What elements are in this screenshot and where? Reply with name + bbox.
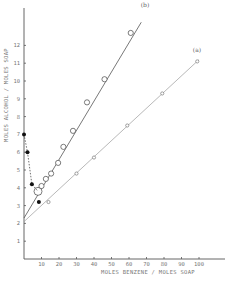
x-tick-label: 70 (143, 261, 150, 267)
data-point (196, 60, 199, 63)
data-point (102, 77, 107, 82)
series-b-label: (b) (141, 1, 150, 8)
data-point (22, 132, 26, 136)
y-tick-label: 5 (17, 167, 20, 173)
series-layer (22, 22, 199, 221)
x-axis-label: MOLES BENZENE / MOLES SOAP (101, 269, 195, 275)
y-tick-label: 11 (13, 60, 20, 66)
x-tick-label: 40 (91, 261, 98, 267)
y-tick-label: 9 (17, 96, 20, 102)
series-0 (24, 60, 199, 222)
data-point (92, 156, 95, 159)
data-point (47, 200, 50, 203)
x-tick-label: 20 (56, 261, 63, 267)
data-point (56, 160, 61, 165)
x-tick-label: 100 (194, 261, 204, 267)
x-tick-label: 50 (108, 261, 115, 267)
x-ticks: 102030405060708090100 (38, 257, 204, 267)
x-tick-label: 60 (126, 261, 133, 267)
y-axis-label: MOLES ALCOHOL / MOLES SOAP (3, 48, 9, 142)
x-tick-label: 10 (38, 261, 45, 267)
data-point (161, 92, 164, 95)
y-tick-label: 1 (17, 238, 20, 244)
chart: 123456789101112 102030405060708090100 MO… (0, 0, 228, 283)
x-tick-label: 30 (73, 261, 80, 267)
x-tick-label: 90 (178, 261, 185, 267)
y-tick-label: 7 (17, 131, 20, 137)
y-tick-label: 4 (17, 185, 21, 191)
data-point (126, 124, 129, 127)
series-a-label: (a) (193, 46, 201, 53)
y-tick-label: 6 (17, 149, 20, 155)
data-point (128, 30, 133, 35)
x-tick-label: 80 (161, 261, 168, 267)
series-1 (24, 22, 141, 218)
y-tick-label: 12 (13, 42, 20, 48)
fit-line (24, 60, 199, 222)
y-tick-label: 3 (17, 203, 20, 209)
data-point (75, 172, 78, 175)
data-point (39, 183, 44, 188)
data-point (30, 182, 34, 186)
data-point (61, 144, 66, 149)
data-point (37, 200, 41, 204)
data-point (70, 128, 75, 133)
data-point (43, 176, 48, 181)
data-point (49, 171, 54, 176)
y-tick-label: 10 (13, 78, 20, 84)
data-point (84, 100, 89, 105)
y-tick-label: 2 (17, 220, 20, 226)
data-point (26, 150, 30, 154)
y-tick-label: 8 (17, 114, 20, 120)
